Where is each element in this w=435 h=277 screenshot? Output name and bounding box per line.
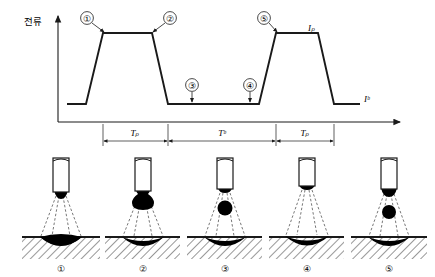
base-current-label: Iᵇ: [363, 94, 370, 104]
stage-5-workpiece: [351, 237, 427, 259]
current-waveform-trace: [67, 33, 360, 104]
stage-4-number-label: ④: [303, 264, 311, 274]
stage-3-workpiece: [187, 237, 262, 259]
callout-1-label: ①: [83, 14, 91, 24]
stage-1-arc-cone: [41, 196, 81, 236]
stage-1-number: ①: [57, 264, 65, 274]
callout-3: ③: [186, 79, 199, 102]
callout-2-leader: [153, 23, 165, 32]
stage-5-number-label: ⑤: [385, 264, 393, 274]
stage-2-workpiece: [105, 237, 180, 259]
timing-label-tb: Tᵇ: [218, 128, 226, 138]
timing-span-tb: Tᵇ: [169, 128, 275, 141]
callout-1: ①: [81, 12, 104, 32]
callout-2: ②: [153, 12, 176, 32]
callout-2-label: ②: [166, 14, 174, 24]
callout-3-label: ③: [188, 81, 196, 91]
timing-label-tp-1: Tₚ: [130, 128, 139, 138]
stage-1: ①: [22, 158, 100, 274]
callout-5-label: ⑤: [260, 14, 268, 24]
stage-1-number-label: ①: [57, 264, 65, 274]
waveform-chart: 전류 Iₚ Iᵇ ① ② ③: [24, 12, 400, 122]
peak-current-label: Iₚ: [307, 23, 315, 33]
timing-span-tp-1: Tₚ: [104, 128, 167, 141]
callout-5-leader: [269, 23, 277, 32]
stage-3-electrode: [217, 158, 233, 189]
stage-2-electrode: [135, 158, 151, 191]
timing-dimension-band: Tₚ Tᵇ Tₚ: [103, 124, 334, 146]
stage-2: ②: [105, 158, 180, 274]
callout-4-label: ④: [246, 81, 254, 91]
callout-5: ⑤: [258, 12, 277, 32]
stage-5: ⑤: [351, 158, 427, 274]
stage-1-electrode: [53, 158, 69, 192]
timing-label-tp-2: Tₚ: [300, 128, 309, 138]
stage-4-electrode: [299, 158, 315, 186]
timing-span-tp-2: Tₚ: [277, 128, 333, 141]
callout-1-leader: [92, 23, 104, 32]
stage-3-number-label: ③: [221, 264, 229, 274]
stage-4-workpiece: [269, 237, 344, 259]
stage-3: ③: [187, 158, 262, 274]
callout-4: ④: [244, 79, 257, 102]
stage-3-droplet-in-flight: [218, 201, 233, 216]
y-axis-label: 전류: [24, 17, 42, 27]
stage-2-number-label: ②: [139, 264, 147, 274]
stage-5-electrode: [381, 158, 397, 189]
stage-4: ④: [269, 158, 344, 274]
stage-5-droplet-in-flight: [382, 205, 396, 219]
welding-pulse-diagram: 전류 Iₚ Iᵇ ① ② ③: [0, 0, 435, 277]
diagram-canvas: 전류 Iₚ Iᵇ ① ② ③: [0, 0, 435, 277]
stage-4-arc-cone: [286, 190, 328, 235]
